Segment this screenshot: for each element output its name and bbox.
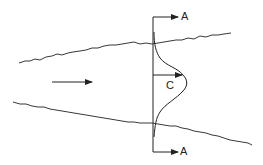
upper-plume-boundary <box>19 33 231 63</box>
plume-diagram: A A C <box>0 0 263 165</box>
section-label-top: A <box>181 10 188 22</box>
centerline-label: C <box>166 79 174 91</box>
lower-plume-boundary <box>13 102 252 145</box>
diagram-drawing <box>0 0 263 165</box>
section-label-bottom: A <box>180 145 187 157</box>
